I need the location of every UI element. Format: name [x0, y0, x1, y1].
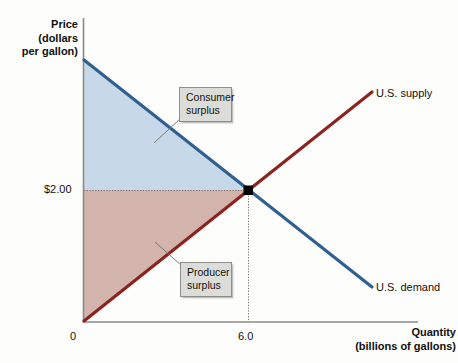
y-tick-label-2-00: $2.00 — [44, 183, 72, 195]
equilibrium-point-marker — [244, 186, 254, 196]
us-supply-label: U.S. supply — [376, 87, 432, 99]
producer-surplus-callout-line2: surplus — [187, 279, 225, 292]
consumer-surplus-callout: Consumer surplus — [179, 87, 232, 122]
x-axis-title-main: Quantity — [330, 326, 456, 340]
y-axis-title: Price (dollars per gallon) — [6, 18, 78, 59]
consumer-surplus-callout-line1: Consumer — [186, 91, 225, 104]
y-axis-title-main: Price — [6, 18, 78, 32]
surplus-chart-figure: Price (dollars per gallon) Quantity (bil… — [0, 0, 458, 363]
us-demand-label: U.S. demand — [376, 281, 440, 293]
y-axis-units-line1: (dollars — [6, 32, 78, 46]
producer-surplus-callout-line1: Producer — [187, 266, 225, 279]
x-tick-label-6-0: 6.0 — [238, 330, 253, 342]
y-axis-units-line2: per gallon) — [6, 45, 78, 59]
x-axis-title: Quantity (billions of gallons) — [330, 326, 456, 353]
x-tick-label-origin: 0 — [70, 330, 76, 342]
consumer-surplus-callout-line2: surplus — [186, 104, 225, 117]
x-axis-units: (billions of gallons) — [330, 340, 456, 354]
producer-surplus-callout: Producer surplus — [180, 262, 232, 297]
